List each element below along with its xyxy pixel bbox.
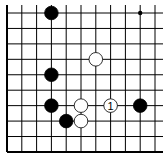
go-board: 1 [0,0,168,159]
white-stone [74,114,88,128]
black-stone [45,99,59,113]
black-stone [59,114,73,128]
white-stone [89,53,103,67]
move-number: 1 [108,100,114,112]
black-stone [133,99,147,113]
black-stone [45,6,59,20]
hoshi-point [138,11,142,15]
black-stone [45,68,59,82]
white-stone [74,99,88,113]
